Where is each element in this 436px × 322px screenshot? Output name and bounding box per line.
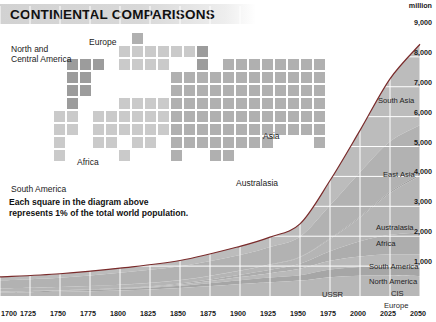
population-square: [184, 72, 195, 83]
population-square: [119, 46, 130, 57]
population-square: [80, 85, 91, 96]
population-square: [288, 98, 299, 109]
population-square: [314, 72, 325, 83]
population-square: [184, 46, 195, 57]
y-axis-tick-2000: 2,000: [414, 227, 432, 236]
population-square: [210, 85, 221, 96]
band-label-south-asia: South Asia: [378, 96, 414, 105]
x-axis-tick-1875: 1875: [200, 309, 216, 318]
population-square: [249, 59, 260, 70]
population-square: [184, 98, 195, 109]
population-square: [119, 111, 130, 122]
x-axis-tick-1750: 1750: [50, 309, 66, 318]
population-square: [314, 111, 325, 122]
x-axis-tick-1800: 1800: [110, 309, 126, 318]
population-square: [132, 46, 143, 57]
population-square: [262, 98, 273, 109]
y-axis-tick-5000: 5,000: [414, 138, 432, 147]
population-square: [132, 137, 143, 148]
population-square: [197, 137, 208, 148]
population-square: [54, 150, 65, 161]
population-square: [54, 111, 65, 122]
x-axis-tick-1925: 1925: [260, 309, 276, 318]
population-square: [158, 124, 169, 135]
y-axis-tick-4000: 4,000: [414, 167, 432, 176]
band-label-south-america: South America: [369, 262, 418, 271]
population-square: [236, 137, 247, 148]
population-square: [288, 124, 299, 135]
band-label-ussr: USSR: [322, 290, 343, 299]
y-axis-tick-7000: 7,000: [414, 78, 432, 87]
population-square: [119, 150, 130, 161]
population-square: [145, 98, 156, 109]
band-label-australasia: Australasia: [376, 223, 414, 232]
population-square: [132, 98, 143, 109]
band-label-east-asia: East Asia: [383, 170, 415, 179]
population-square: [197, 72, 208, 83]
population-square: [106, 137, 117, 148]
y-axis-unit-label: million: [409, 1, 432, 10]
population-square: [314, 98, 325, 109]
population-square: [288, 111, 299, 122]
population-square: [93, 59, 104, 70]
population-square: [210, 150, 221, 161]
population-square: [288, 72, 299, 83]
population-square: [210, 98, 221, 109]
x-axis-tick-1850: 1850: [170, 309, 186, 318]
diagram-label-north-central-america: North and: [11, 44, 48, 54]
population-square: [275, 59, 286, 70]
diagram-label-europe: Europe: [89, 37, 116, 47]
diagram-label-asia: Asia: [263, 131, 280, 141]
population-square: [301, 111, 312, 122]
population-square: [223, 111, 234, 122]
population-square: [262, 72, 273, 83]
population-square: [132, 124, 143, 135]
population-square: [93, 111, 104, 122]
population-square: [80, 72, 91, 83]
population-square: [223, 59, 234, 70]
population-square: [197, 98, 208, 109]
population-square: [249, 85, 260, 96]
population-square: [236, 72, 247, 83]
population-square: [171, 85, 182, 96]
population-square: [236, 85, 247, 96]
population-square: [54, 137, 65, 148]
population-square: [184, 124, 195, 135]
population-square: [288, 59, 299, 70]
band-label-north-america: North America: [369, 277, 417, 286]
population-square: [184, 85, 195, 96]
population-square: [275, 98, 286, 109]
population-square: [223, 150, 234, 161]
x-axis-tick-1975: 1975: [320, 309, 336, 318]
population-square: [275, 85, 286, 96]
population-square: [171, 46, 182, 57]
population-square: [197, 124, 208, 135]
population-square: [67, 72, 78, 83]
x-axis-tick-2000: 2000: [350, 309, 366, 318]
population-square: [301, 85, 312, 96]
population-square: [145, 124, 156, 135]
population-square: [106, 124, 117, 135]
population-square: [223, 85, 234, 96]
x-axis-tick-2050: 2050: [410, 309, 426, 318]
band-label-cis: CIS: [391, 289, 404, 298]
population-square: [249, 111, 260, 122]
population-square: [119, 59, 130, 70]
diagram-label-africa: Africa: [77, 157, 99, 167]
population-square: [301, 124, 312, 135]
population-square: [223, 72, 234, 83]
population-square: [314, 137, 325, 148]
population-square: [171, 137, 182, 148]
y-axis-tick-3000: 3,000: [414, 197, 432, 206]
population-square: [54, 124, 65, 135]
diagram-label-south-america: South America: [11, 184, 66, 194]
population-square: [210, 124, 221, 135]
population-square: [67, 85, 78, 96]
population-square: [158, 59, 169, 70]
population-square: [249, 137, 260, 148]
population-square: [106, 111, 117, 122]
population-square: [171, 98, 182, 109]
population-square: [171, 111, 182, 122]
x-axis-tick-1725: 1725: [20, 309, 36, 318]
population-square: [132, 33, 143, 44]
